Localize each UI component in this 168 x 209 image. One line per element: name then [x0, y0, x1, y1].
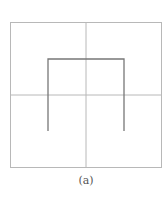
figure-caption: (a) [0, 174, 168, 187]
